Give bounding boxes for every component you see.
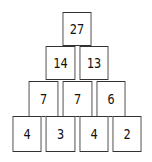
- pyramid-cell: 14: [46, 46, 76, 80]
- pyramid-cell: 7: [29, 81, 59, 117]
- pyramid-cell: 13: [80, 46, 109, 80]
- pyramid-cell: 27: [63, 12, 92, 46]
- pyramid-cell: 4: [80, 116, 109, 152]
- pyramid-cell: 7: [63, 81, 93, 117]
- pyramid-cell: 2: [113, 116, 142, 152]
- pyramid-cell: 3: [46, 116, 76, 152]
- pyramid-cell: 4: [13, 116, 42, 152]
- pyramid-cell: 6: [97, 81, 126, 117]
